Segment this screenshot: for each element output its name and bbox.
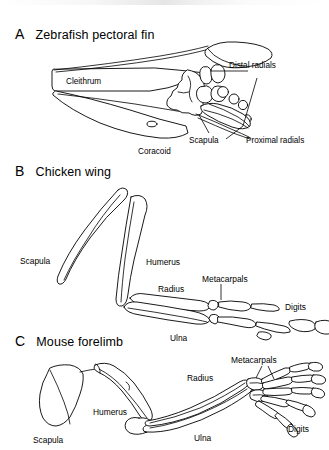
digit-3-phalanx-2: [311, 388, 324, 398]
digit-2-phalanx-2: [311, 375, 325, 384]
panel-c-illustration: Scapula Humerus Radius Ulna Metacarpals …: [0, 352, 329, 450]
distal-radial-1: [218, 87, 229, 98]
panel-b-chicken-wing: B Chicken wing: [0, 158, 329, 328]
label-ulna: Ulna: [194, 433, 212, 443]
label-digits: Digits: [285, 302, 306, 312]
panel-a-zebrafish-pectoral-fin: A Zebrafish pectoral fin: [0, 0, 329, 158]
panel-b-letter: B: [15, 163, 25, 179]
distal-radial-3: [238, 100, 247, 109]
proximal-radial-2: [211, 65, 225, 83]
label-metacarpals: Metacarpals: [231, 355, 277, 365]
distal-radial-2: [229, 94, 239, 104]
scapula-neck: [80, 369, 96, 372]
metacarpal-3: [263, 388, 293, 396]
comparative-anatomy-figure: A Zebrafish pectoral fin: [0, 0, 329, 450]
panel-c-letter: C: [15, 333, 25, 349]
label-distal-radials: Distal radials: [229, 61, 276, 70]
leader-metacarpals: [256, 366, 262, 378]
scapula-shape: [57, 188, 127, 284]
label-proximal-radials: Proximal radials: [246, 136, 304, 145]
panel-b-illustration: Scapula Humerus Radius Ulna Metacarpals …: [0, 184, 329, 328]
proximal-radial-1: [200, 67, 212, 84]
panel-c-mouse-forelimb: C Mouse forelimb: [0, 328, 329, 450]
carpal-block-1: [247, 378, 264, 390]
label-radius: Radius: [158, 284, 184, 294]
coracoid-shape: [53, 91, 188, 138]
label-scapula: Scapula: [33, 435, 64, 445]
carpal-1: [208, 300, 218, 310]
metacarpal-major: [219, 301, 251, 311]
label-scapula: Scapula: [20, 256, 51, 266]
cleithrum-dorsal-ridge: [54, 46, 208, 70]
label-coracoid: Coracoid: [138, 147, 171, 156]
panel-b-heading: B Chicken wing: [15, 163, 111, 179]
label-radius: Radius: [187, 373, 213, 383]
label-digits: Digits: [288, 424, 309, 434]
digit-1-phalanx-2: [308, 362, 322, 371]
label-humerus: Humerus: [146, 257, 180, 267]
label-humerus: Humerus: [93, 407, 127, 417]
panel-c-heading: C Mouse forelimb: [15, 333, 123, 349]
panel-b-title: Chicken wing: [36, 165, 112, 179]
metacarpal-minor: [218, 317, 256, 328]
humerus-shape: [116, 195, 147, 306]
leader-scapula: [199, 115, 209, 133]
digit-1-phalanx: [251, 304, 279, 312]
label-cleithrum: Cleithrum: [66, 77, 101, 86]
panel-a-illustration: Cleithrum Coracoid Scapula Distal radial…: [0, 40, 329, 158]
coracoid-foramen: [147, 121, 157, 127]
panel-c-title: Mouse forelimb: [36, 335, 123, 349]
label-metacarpals: Metacarpals: [202, 274, 248, 284]
label-scapula: Scapula: [189, 136, 219, 145]
digit-4-phalanx-2: [303, 405, 315, 417]
